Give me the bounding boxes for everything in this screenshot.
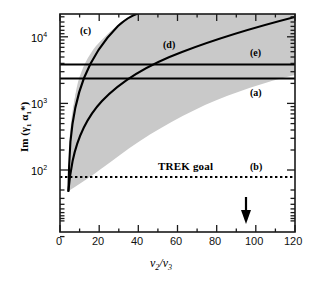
- y-tick-label-1e4: 104: [31, 31, 47, 44]
- figure-container: 104 103 102 Im (γ1 α1*) 0 20 40 60 80 10…: [0, 0, 313, 281]
- y-tick-label-1e3: 103: [31, 97, 47, 110]
- annotation-e: (e): [250, 48, 261, 58]
- x-tick-label-120: 120: [284, 236, 302, 247]
- x-tick-label-80: 80: [209, 236, 221, 247]
- x-tick-label-100: 100: [245, 236, 263, 247]
- annotation-trek-goal: TREK goal: [158, 160, 213, 172]
- y-axis-title: Im (γ1 α1*): [18, 102, 33, 152]
- x-tick-label-40: 40: [131, 236, 143, 247]
- x-tick-label-60: 60: [170, 236, 182, 247]
- y-tick-label-1e2: 102: [31, 164, 47, 177]
- annotation-c: (c): [80, 26, 91, 36]
- x-tick-label-20: 20: [92, 236, 104, 247]
- x-tick-label-0: 0: [56, 236, 62, 247]
- annotation-d: (d): [163, 40, 175, 50]
- annotation-b: (b): [250, 162, 262, 172]
- x-axis-title: v2/v3: [150, 256, 172, 272]
- annotation-a: (a): [250, 88, 262, 98]
